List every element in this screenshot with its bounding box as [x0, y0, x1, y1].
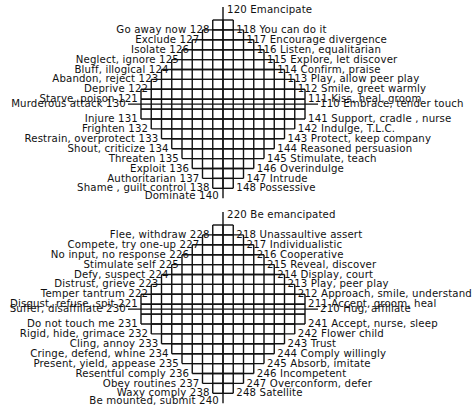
top-label: 120 Emancipate: [227, 4, 312, 15]
right-label: 248 Satellite: [236, 387, 302, 398]
lower-diamond-diagram: 220 Be emancipatedFlee, withdraw 228Comp…: [0, 205, 470, 405]
left-label: Suffer, disaffiliate 230: [10, 303, 126, 314]
left-label: Murderous attack 130: [11, 98, 126, 109]
right-label: 110 Embrace, tender touch: [320, 98, 464, 109]
top-label: 220 Be emancipated: [227, 209, 336, 220]
right-label: 210 Hug, affiliate: [320, 303, 411, 314]
bottom-label: Dominate 140: [145, 190, 219, 201]
right-label: 148 Possessive: [236, 182, 315, 193]
upper-diamond-diagram: 120 EmancipateGo away now 128Exclude 127…: [0, 0, 470, 200]
bottom-label: Be mounted, submit 240: [89, 395, 219, 406]
